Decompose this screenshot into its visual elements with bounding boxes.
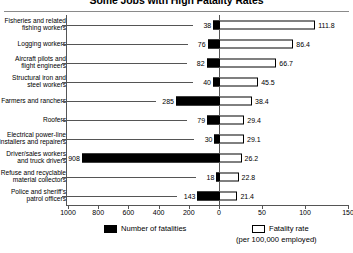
chart-row: Farmers and ranchers28538.4 [0,91,353,110]
bar-value-fatality-rate: 45.5 [261,78,275,85]
category-label: Driver/sales workers and truck drivers [0,150,66,165]
legend-label-rate: Fatality rate [269,224,309,234]
axis-tick-label: 1000 [60,209,76,216]
value-axis-line [66,205,349,206]
bar-value-fatality-rate: 86.4 [296,40,310,47]
axis-tick-label: 150 [342,209,353,216]
leader-line [67,196,177,197]
category-label: Aircraft pilots and flight engineers [0,55,66,70]
bar-value-fatality-rate: 29.4 [247,116,261,123]
bar-value-fatality-rate: 22.8 [242,173,256,180]
legend-sublabel-rate: (per 100,000 employed) [236,235,317,245]
bar-fatality-rate [219,39,293,48]
axis-tick-label: 600 [123,209,135,216]
axis-tick-label: 400 [153,209,165,216]
axis-tick-label: 50 [258,209,266,216]
leader-line [67,44,188,45]
bar-fatalities [82,153,219,162]
bar-value-fatalities: 79 [197,116,205,123]
bar-value-fatality-rate: 111.8 [318,21,334,28]
plot-area: Fisheries and related fishing workers381… [0,15,353,205]
chart-row: Roofers7929.4 [0,110,353,129]
leader-line [67,139,194,140]
legend-item-rate: Fatality rate [252,224,309,234]
leader-line [67,101,156,102]
bar-fatalities [207,115,219,124]
category-label: Logging workers [0,40,66,48]
bar-fatalities [176,96,219,105]
category-label: Refuse and recyclable material collector… [0,169,66,184]
bar-fatalities [197,191,219,200]
chart-row: Police and sheriff's patrol officers1432… [0,186,353,205]
chart-row: Logging workers7686.4 [0,34,353,53]
bar-value-fatalities: 285 [162,97,174,104]
axis-tick-label: 100 [299,209,311,216]
bar-fatality-rate [219,153,242,162]
axis-tick-label: 0 [217,209,221,216]
bar-fatality-rate [219,77,258,86]
chart-row: Electrical power-line installers and rep… [0,129,353,148]
category-tick [62,158,67,159]
leader-line [67,25,193,26]
axis-tick-label: 200 [183,209,195,216]
bar-value-fatality-rate: 66.7 [279,59,293,66]
bar-fatality-rate [219,115,244,124]
chart-legend: Number of fatalities Fatality rate (per … [0,224,353,253]
legend-item-fatalities: Number of fatalities [104,224,186,234]
leader-line [67,120,187,121]
bar-fatality-rate [219,172,239,181]
bar-value-fatality-rate: 29.1 [247,135,261,142]
bar-fatality-rate [219,20,315,29]
page-title: Some Jobs with High Fatality Rates [0,0,353,6]
leader-line [67,63,187,64]
bar-fatalities [208,39,219,48]
bar-rows: Fisheries and related fishing workers381… [0,15,353,205]
bar-fatality-rate [219,96,252,105]
bar-fatality-rate [219,58,276,67]
bar-fatality-rate [219,134,244,143]
chart-row: Fisheries and related fishing workers381… [0,15,353,34]
chart-row: Driver/sales workers and truck drivers90… [0,148,353,167]
bar-value-fatalities: 18 [207,173,215,180]
fatality-rates-chart: Some Jobs with High Fatality Rates Fishe… [0,0,353,253]
category-label: Roofers [0,116,66,124]
legend-swatch-white-icon [252,225,265,233]
category-label: Electrical power-line installers and rep… [0,131,66,146]
bar-value-fatalities: 82 [197,59,205,66]
axis-tick-label: 800 [92,209,104,216]
bar-fatality-rate [219,191,237,200]
chart-row: Refuse and recyclable material collector… [0,167,353,186]
category-label: Police and sheriff's patrol officers [0,188,66,203]
title-divider [4,11,349,12]
bar-value-fatalities: 38 [203,21,211,28]
category-label: Fisheries and related fishing workers [0,17,66,32]
bar-fatalities [207,58,219,67]
legend-swatch-black-icon [104,225,117,233]
bar-value-fatality-rate: 21.4 [240,192,254,199]
legend-label-fatalities: Number of fatalities [121,224,186,234]
bar-value-fatality-rate: 38.4 [255,97,269,104]
bar-value-fatalities: 143 [184,192,196,199]
bar-value-fatalities: 40 [203,78,211,85]
chart-row: Aircraft pilots and flight engineers8266… [0,53,353,72]
category-label: Farmers and ranchers [0,97,66,105]
leader-line [67,177,196,178]
chart-row: Structural iron and steel workers4045.5 [0,72,353,91]
bar-value-fatality-rate: 26.2 [245,154,259,161]
bar-value-fatalities: 908 [68,154,80,161]
bar-value-fatalities: 76 [198,40,206,47]
bar-value-fatalities: 30 [205,135,213,142]
leader-line [67,82,193,83]
category-label: Structural iron and steel workers [0,74,66,89]
